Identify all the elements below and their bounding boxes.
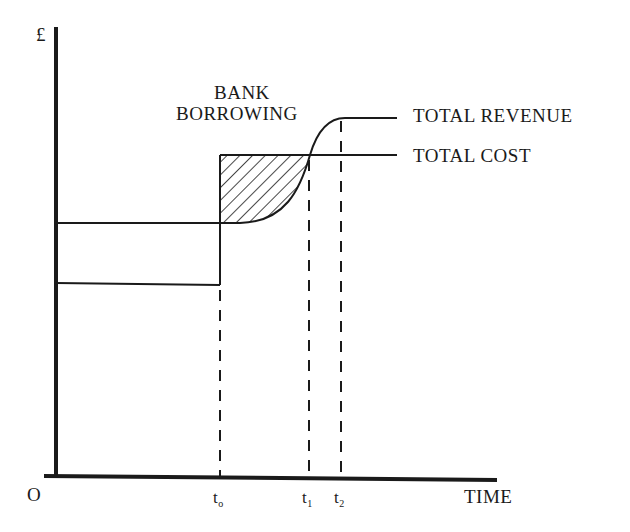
tick-t2: t2 xyxy=(334,488,345,508)
tick-t0: to xyxy=(213,488,224,508)
tick-t1-sub: 1 xyxy=(307,498,313,509)
y-axis-label: £ xyxy=(36,24,46,46)
initial-revenue-line xyxy=(56,283,220,285)
annotation-bank: BANK xyxy=(214,82,270,104)
tick-t0-sub: o xyxy=(218,498,224,509)
x-axis xyxy=(44,476,497,480)
total-revenue-label: TOTAL REVENUE xyxy=(413,105,573,127)
origin-label: O xyxy=(27,484,41,506)
tick-t1: t1 xyxy=(302,488,313,508)
tick-t2-sub: 2 xyxy=(339,498,345,509)
diagram-canvas xyxy=(0,0,630,532)
total-cost-label: TOTAL COST xyxy=(413,145,531,167)
annotation-borrowing: BORROWING xyxy=(176,103,298,125)
bank-borrowing-area xyxy=(220,155,315,225)
x-axis-label: TIME xyxy=(464,486,512,508)
